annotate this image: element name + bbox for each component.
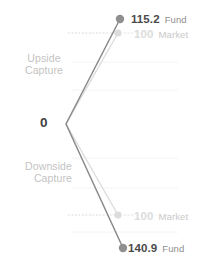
upside-market-series-name: Market bbox=[159, 29, 189, 40]
downside-capture-label: Downside Capture bbox=[6, 160, 72, 185]
chart-plot-area bbox=[0, 0, 202, 272]
upside-fund-value-row: 115.2 Fund bbox=[131, 13, 187, 25]
downside-market-value-row: 100 Market bbox=[134, 210, 188, 222]
fund-downside-point bbox=[119, 244, 127, 252]
gridlines bbox=[72, 33, 178, 232]
downside-fund-value-row: 140.9 Fund bbox=[128, 242, 184, 254]
downside-market-value: 100 bbox=[134, 210, 154, 222]
downside-market-series-name: Market bbox=[159, 211, 189, 222]
downside-fund-value: 140.9 bbox=[128, 242, 157, 254]
upside-market-value-row: 100 Market bbox=[134, 28, 188, 40]
upside-capture-label-line1: Upside bbox=[16, 52, 72, 64]
upside-capture-label: Upside Capture bbox=[16, 52, 72, 77]
downside-fund-series-name: Fund bbox=[162, 243, 184, 254]
upside-market-value: 100 bbox=[134, 28, 154, 40]
downside-capture-label-line1: Downside bbox=[6, 160, 72, 172]
upside-fund-series-name: Fund bbox=[165, 14, 187, 25]
upside-fund-value: 115.2 bbox=[131, 13, 160, 25]
fund-polyline bbox=[66, 19, 123, 248]
fund-upside-point bbox=[116, 15, 124, 23]
market-downside-point bbox=[114, 211, 121, 218]
market-upside-point bbox=[114, 29, 121, 36]
downside-capture-label-line2: Capture bbox=[6, 172, 72, 184]
capture-ratio-chart: 0 Upside Capture Downside Capture 115.2 … bbox=[0, 0, 202, 272]
upside-capture-label-line2: Capture bbox=[16, 64, 72, 76]
zero-axis-label: 0 bbox=[40, 115, 48, 131]
